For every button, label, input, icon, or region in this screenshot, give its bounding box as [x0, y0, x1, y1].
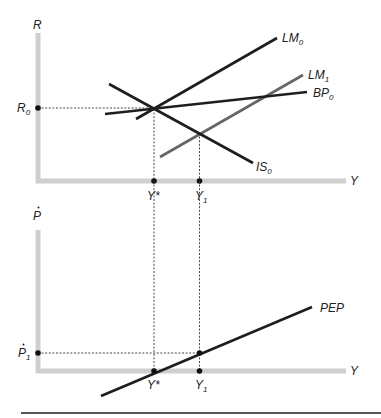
svg-text:P: P — [33, 209, 41, 223]
r0-label: R0 — [17, 101, 31, 117]
ystar-point-bottom — [151, 368, 157, 374]
bp0-curve — [105, 92, 307, 114]
r0-point — [35, 105, 41, 111]
y1-point-bottom — [197, 368, 203, 374]
svg-text:P1: P1 — [18, 346, 30, 362]
bottom-x-axis-label: Y — [350, 364, 359, 378]
dot-accent-icon — [23, 344, 25, 346]
ystar-label-top: Y* — [147, 189, 160, 203]
is0-label: IS0 — [256, 160, 272, 176]
is0-curve — [109, 84, 253, 163]
top-curves: LM0LM1BP0IS0 — [105, 31, 334, 176]
pep-label: PEP — [320, 301, 344, 315]
dot-accent-icon — [38, 207, 40, 209]
bottom-axes — [38, 230, 346, 371]
p1-point — [35, 350, 41, 356]
lm1-label: LM1 — [308, 68, 329, 84]
pep-curve — [101, 307, 312, 396]
bp0-label: BP0 — [313, 86, 334, 102]
p1-label: P1 — [18, 344, 30, 363]
bottom-curves: PEP — [101, 301, 344, 396]
is-lm-bp-pep-diagram: R Y LM0LM1BP0IS0 R0 Y* Y1 P Y PEP — [0, 0, 381, 418]
top-x-axis-label: Y — [350, 174, 359, 188]
top-axes — [38, 33, 346, 181]
lm0-curve — [136, 38, 277, 119]
ystar-label-bottom: Y* — [147, 378, 160, 392]
bottom-y-axis-label: P — [33, 207, 41, 224]
lm0-label: LM0 — [282, 31, 304, 47]
pep-y1-point — [197, 350, 203, 356]
lm1-curve — [160, 75, 303, 157]
top-y-axis-label: R — [33, 18, 42, 32]
y1-label-top: Y1 — [195, 189, 207, 205]
y1-label-bottom: Y1 — [195, 378, 207, 394]
bottom-panel: P Y PEP P1 Y* Y1 — [18, 181, 359, 396]
top-panel: R Y LM0LM1BP0IS0 R0 Y* Y1 — [17, 18, 359, 205]
